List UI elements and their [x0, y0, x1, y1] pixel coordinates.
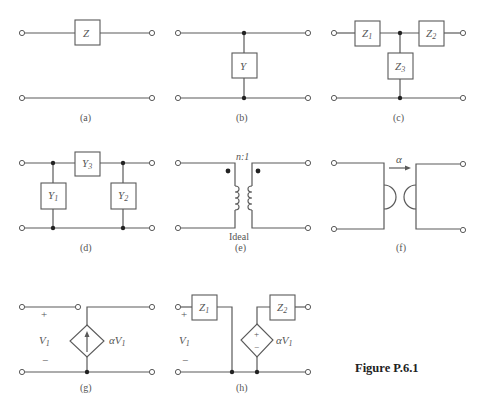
junction-dot	[255, 370, 259, 374]
terminal-out-bottom	[149, 95, 154, 100]
terminal-out-bottom	[460, 95, 465, 100]
terminal-in-top	[19, 30, 24, 35]
junction-dot	[51, 161, 55, 165]
figure-canvas: Z (a) Y (b) Z1 Z2 Z3	[0, 0, 487, 398]
turns-ratio-label: n:1	[236, 151, 249, 162]
label-z: Z	[83, 27, 90, 39]
panel-f: α (f)	[331, 153, 465, 254]
junction-dot	[398, 31, 402, 35]
panel-b: Y (b)	[175, 30, 310, 124]
terminal-in-bottom	[19, 95, 24, 100]
junction-dot	[121, 226, 125, 230]
panel-d: Y3 Y1 Y2 (d)	[19, 152, 154, 254]
terminal-out-bottom	[460, 227, 465, 232]
terminal-out-bottom	[305, 225, 310, 230]
terminal-out-top	[305, 304, 310, 309]
terminal-out-bottom	[149, 225, 154, 230]
terminal-in-top	[331, 30, 336, 35]
terminal-in-top	[175, 304, 180, 309]
junction-dot	[242, 96, 246, 100]
caption-h: (h)	[236, 382, 248, 394]
terminal-out-top	[305, 160, 310, 165]
primary-coil-icon	[235, 186, 239, 210]
terminal-out-top	[149, 160, 154, 165]
panel-g: + − V1 αV1 (g)	[19, 304, 154, 394]
arrow-right-icon	[405, 166, 411, 171]
caption-e: (e)	[235, 242, 246, 254]
terminal-in-bottom	[175, 225, 180, 230]
label-v1: V1	[39, 334, 50, 348]
terminal-out-bottom	[149, 369, 154, 374]
source-plus-sign: +	[254, 329, 259, 339]
junction-dot	[121, 161, 125, 165]
junction-dot	[230, 370, 234, 374]
terminal-out-top	[460, 30, 465, 35]
junction-dot	[51, 226, 55, 230]
caption-c: (c)	[393, 112, 404, 124]
terminal-in-top	[19, 160, 24, 165]
terminal-in-top	[175, 160, 180, 165]
junction-dot	[242, 31, 246, 35]
terminal-out-top	[305, 30, 310, 35]
ideal-label: Ideal	[229, 231, 249, 242]
terminal-out-bottom	[305, 369, 310, 374]
plus-sign: +	[41, 308, 47, 320]
junction-dot	[85, 370, 89, 374]
left-semicircle-icon	[384, 185, 396, 209]
terminal-out-top	[149, 304, 154, 309]
caption-a: (a)	[80, 112, 91, 124]
terminal-out-bottom	[305, 95, 310, 100]
source-minus-sign: −	[254, 342, 259, 352]
terminal-in-bottom	[175, 369, 180, 374]
terminal-in-top	[175, 30, 180, 35]
plus-sign: +	[181, 308, 187, 320]
terminal-in-top	[19, 304, 24, 309]
terminal-in-bottom	[331, 95, 336, 100]
right-semicircle-icon	[404, 185, 416, 209]
terminal-in-top	[331, 160, 336, 165]
junction-dot	[398, 96, 402, 100]
polarity-dot	[226, 169, 231, 174]
panel-c: Z1 Z2 Z3 (c)	[331, 21, 465, 124]
caption-g: (g)	[80, 382, 92, 394]
label-alpha-v1: αV1	[276, 334, 293, 348]
terminal-in-bottom	[331, 226, 336, 231]
terminal-open	[75, 304, 80, 309]
caption-d: (d)	[80, 242, 92, 254]
secondary-coil-icon	[248, 186, 252, 210]
panel-e: n:1 Ideal (e)	[175, 151, 310, 254]
terminal-in-bottom	[19, 225, 24, 230]
terminal-out-top	[149, 30, 154, 35]
terminal-in-bottom	[175, 95, 180, 100]
caption-b: (b)	[236, 112, 248, 124]
label-v1: V1	[179, 334, 190, 348]
panel-a: Z (a)	[19, 20, 154, 124]
polarity-dot	[256, 169, 261, 174]
panel-h: Z1 Z2 + − + − V1 αV1 (h)	[175, 295, 310, 394]
figure-caption: Figure P.6.1	[355, 361, 419, 375]
label-alpha-v1: αV1	[109, 334, 126, 348]
terminal-out-top	[460, 161, 465, 166]
alpha-label: α	[396, 153, 402, 165]
terminal-in-bottom	[19, 369, 24, 374]
caption-f: (f)	[396, 242, 406, 254]
minus-sign: −	[42, 354, 48, 366]
minus-sign: −	[182, 354, 188, 366]
